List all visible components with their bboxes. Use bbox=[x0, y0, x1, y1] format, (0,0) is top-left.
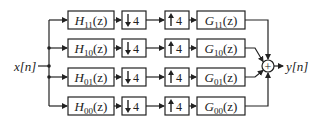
upsample-factor: 4 bbox=[176, 71, 182, 85]
downsample-factor: 4 bbox=[133, 42, 139, 56]
junction-dot bbox=[47, 64, 51, 68]
downsample-factor: 4 bbox=[133, 14, 139, 28]
channel-row: H10(z)44G10(z) bbox=[49, 39, 263, 62]
downsample-factor: 4 bbox=[133, 71, 139, 85]
filter-bank-diagram: x[n] H11(z)44G11(z)H10(z)44G10(z)H01(z)4… bbox=[0, 0, 315, 133]
upsample-factor: 4 bbox=[176, 14, 182, 28]
sum-input-line bbox=[245, 48, 263, 62]
output-label: y[n] bbox=[284, 59, 308, 74]
sum-input-line bbox=[245, 20, 268, 59]
upsample-factor: 4 bbox=[176, 100, 182, 114]
sum-input-line bbox=[245, 71, 263, 78]
input-label: x[n] bbox=[13, 59, 36, 74]
downsample-factor: 4 bbox=[133, 100, 139, 114]
upsample-factor: 4 bbox=[176, 42, 182, 56]
channel-row: H01(z)44G01(z) bbox=[49, 68, 263, 87]
sum-symbol: + bbox=[265, 60, 272, 74]
sum-input-line bbox=[245, 73, 268, 106]
